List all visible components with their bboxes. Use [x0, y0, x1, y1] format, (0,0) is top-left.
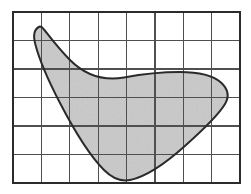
figure-canvas: [0, 0, 251, 194]
figure-root: [0, 0, 251, 194]
